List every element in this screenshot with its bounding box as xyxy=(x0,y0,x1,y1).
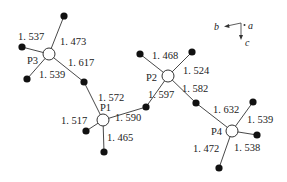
bond-length-label: 1. 524 xyxy=(183,65,210,76)
bonds xyxy=(22,16,257,168)
polyphosphate-chain-diagram: P3 P1 P2 P4 1. 537 1. 473 1. 617 1. 539 … xyxy=(0,0,287,182)
bond-length-label: 1. 597 xyxy=(148,89,174,100)
oxygen-atom xyxy=(18,43,25,50)
oxygen-atom xyxy=(82,127,89,134)
phosphorus-atom-p4 xyxy=(226,125,238,137)
axis-label-a: a xyxy=(248,20,253,31)
label-p2: P2 xyxy=(146,72,157,83)
phosphorus-atom-p2 xyxy=(162,70,174,82)
label-p4: P4 xyxy=(211,126,223,137)
oxygen-atoms xyxy=(18,12,260,171)
oxygen-atom xyxy=(100,148,107,155)
phosphorus-atom-p3 xyxy=(43,48,55,60)
bond-length-label: 1. 632 xyxy=(213,104,239,115)
axis-a-dot xyxy=(244,24,246,26)
bond-length-label: 1. 590 xyxy=(115,112,141,123)
oxygen-atom xyxy=(192,99,199,106)
bond-length-label: 1. 472 xyxy=(193,143,219,154)
bond-length-label: 1. 473 xyxy=(60,36,86,47)
crystal-axes-indicator: b a c xyxy=(214,20,253,48)
bond-length-label: 1. 572 xyxy=(98,92,124,103)
bond-length-label: 1. 539 xyxy=(247,114,273,125)
bond-length-label: 1. 468 xyxy=(152,50,178,61)
bond-length-label: 1. 465 xyxy=(107,132,133,143)
oxygen-atom xyxy=(249,98,256,105)
axis-label-c: c xyxy=(245,37,250,48)
bond-length-label: 1. 538 xyxy=(234,142,260,153)
oxygen-atom xyxy=(136,50,143,57)
oxygen-atom xyxy=(142,103,149,110)
phosphorus-atom-p1 xyxy=(97,114,109,126)
bond-length-label: 1. 539 xyxy=(39,69,65,80)
label-p3: P3 xyxy=(27,55,38,66)
bond-length-label: 1. 537 xyxy=(18,31,44,42)
bond-length-label: 1. 517 xyxy=(61,115,87,126)
oxygen-atom xyxy=(253,131,260,138)
bond-length-label: 1. 617 xyxy=(68,57,94,68)
axis-b-arrowhead xyxy=(224,24,230,28)
oxygen-atom xyxy=(188,48,195,55)
oxygen-atom xyxy=(23,75,30,82)
bond-length-label: 1. 582 xyxy=(182,83,208,94)
oxygen-atom xyxy=(215,164,222,171)
oxygen-atom xyxy=(60,12,67,19)
label-p1: P1 xyxy=(100,102,111,113)
axis-label-b: b xyxy=(214,21,219,32)
oxygen-atom xyxy=(80,78,87,85)
axis-c-arrowhead xyxy=(239,35,243,40)
